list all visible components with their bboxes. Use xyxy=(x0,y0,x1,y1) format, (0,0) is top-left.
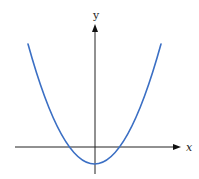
parabola-figure: y x xyxy=(0,0,199,179)
y-axis-arrow-icon xyxy=(92,24,98,32)
x-axis-arrow-icon xyxy=(173,144,181,150)
x-axis-label: x xyxy=(186,141,193,154)
chart-canvas: y x xyxy=(0,0,199,179)
y-axis-label: y xyxy=(92,9,100,22)
